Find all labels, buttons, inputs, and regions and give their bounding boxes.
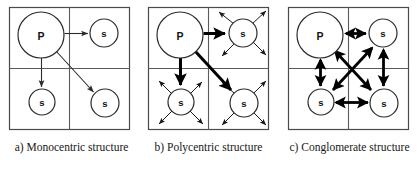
node-label-s: s [241,98,246,109]
radiating-arrow [222,112,235,125]
radiating-arrow [253,81,266,94]
node-label-s: s [380,28,385,39]
radiating-arrow [253,112,266,125]
node-sub-center-bottom-right: s [370,89,398,117]
panel-monocentric: P s s s a) Monocentric structure [0,0,139,171]
radiating-arrow [190,82,202,94]
panel-c-diagram: P s s s [279,0,418,138]
radiating-arrow [219,12,234,24]
radiating-arrow [159,111,172,124]
node-label-s: s [101,28,106,39]
node-sub-center-top-right: s [229,19,257,47]
node-label-s: s [102,98,107,109]
radiating-arrow [190,111,203,124]
node-sub-center-bottom-left: s [29,89,55,115]
node-label-s: s [318,97,323,108]
arrow-p-to-s-bottom-right [56,51,94,92]
node-sub-center-bottom-left: s [168,89,194,115]
panel-conglomerate: P s s s c) Conglomerate structure [279,0,418,171]
node-label-s: s [39,97,44,108]
radiating-arrow [253,42,266,55]
structure-typology-figure: P s s s a) Monocentric structure [0,0,418,171]
radiating-arrow [159,81,172,94]
panel-b-diagram: P s s s [139,0,278,138]
node-label-s: s [178,97,183,108]
radiating-arrow [222,43,235,56]
node-label-p: P [316,30,323,42]
panel-a-diagram: P s s s [0,0,139,138]
node-label-s: s [381,98,386,109]
radiating-arrow [252,11,266,24]
panel-c-caption: c) Conglomerate structure [280,140,418,154]
node-primary-center: P [157,12,203,58]
node-label-p: P [176,30,183,42]
node-sub-center-bottom-right: s [230,89,258,117]
node-sub-center-top-right: s [90,19,118,47]
node-primary-center: P [297,12,343,58]
node-primary-center: P [18,12,64,58]
node-sub-center-top-right: s [369,19,397,47]
node-sub-center-bottom-right: s [91,89,119,117]
panel-b-caption: b) Polycentric structure [139,140,278,154]
panel-a-caption: a) Monocentric structure [2,140,141,154]
node-sub-center-bottom-left: s [308,89,334,115]
node-label-p: P [37,30,44,42]
node-label-s: s [240,28,245,39]
panel-polycentric: P s s s b) Polycentric structure [139,0,278,171]
